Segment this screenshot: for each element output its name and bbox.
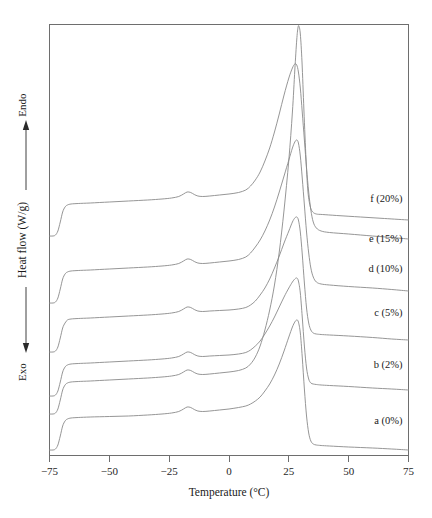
plot-frame — [50, 25, 409, 456]
dsc-curve — [50, 320, 409, 450]
y-axis-title: Heat flow (W/g) — [16, 202, 29, 278]
plot-area: −75−50−250255075 f (20%)e (15%)d (10%)c … — [0, 0, 432, 518]
curve-label: d (10%) — [368, 263, 403, 275]
x-axis-title: Temperature (°C) — [189, 486, 270, 499]
dsc-curve — [50, 217, 409, 352]
exo-arrow-head — [23, 343, 29, 353]
dsc-thermogram-figure: −75−50−250255075 f (20%)e (15%)d (10%)c … — [0, 0, 432, 518]
endo-arrow-head — [23, 120, 29, 130]
curve-label: f (20%) — [370, 193, 403, 205]
dsc-curve — [50, 64, 409, 239]
axis-titles: Temperature (°C)Heat flow (W/g)EndoExo — [16, 93, 270, 499]
x-tick-label: −25 — [161, 465, 179, 477]
curve-label: a (0%) — [374, 415, 403, 427]
x-tick-label: −75 — [41, 465, 59, 477]
curve-labels: f (20%)e (15%)d (10%)c (5%)b (2%)a (0%) — [368, 193, 403, 427]
dsc-curve — [50, 278, 409, 396]
x-tick-label: 25 — [283, 465, 295, 477]
x-axis-ticks: −75−50−250255075 — [41, 456, 415, 477]
dsc-curve — [50, 140, 409, 303]
x-tick-label: −50 — [101, 465, 119, 477]
curve-label: c (5%) — [374, 307, 403, 319]
curve-label: e (15%) — [369, 233, 403, 245]
curve-group — [50, 26, 409, 451]
endo-label: Endo — [16, 93, 28, 117]
axis-frame — [50, 25, 409, 456]
x-tick-label: 50 — [343, 465, 355, 477]
x-tick-label: 75 — [403, 465, 415, 477]
dsc-curve — [50, 26, 409, 415]
exo-label: Exo — [16, 363, 28, 381]
x-tick-label: 0 — [226, 465, 232, 477]
curve-label: b (2%) — [374, 359, 403, 371]
